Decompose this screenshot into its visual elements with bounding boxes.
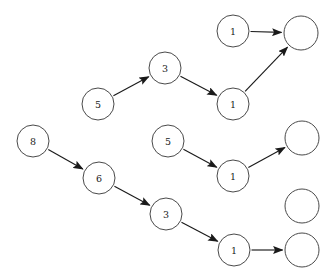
- graph-node[interactable]: 1: [217, 15, 249, 47]
- edge-arrow: [183, 149, 216, 167]
- node-label: 5: [165, 136, 171, 147]
- graph-node[interactable]: 1: [218, 234, 250, 266]
- graph-node-empty[interactable]: [285, 121, 319, 155]
- node-circle[interactable]: [284, 16, 318, 50]
- node-label: 6: [96, 173, 102, 184]
- graph-node[interactable]: 3: [149, 52, 181, 84]
- node-circle[interactable]: [285, 121, 319, 155]
- node-label: 1: [230, 99, 236, 110]
- edge-arrow: [181, 222, 217, 241]
- node-label: 1: [230, 26, 236, 37]
- graph-node-empty[interactable]: [285, 233, 319, 267]
- edge-arrow: [245, 47, 287, 91]
- node-label: 3: [162, 63, 168, 74]
- node-label: 8: [30, 136, 36, 147]
- graph-node[interactable]: 1: [217, 88, 249, 120]
- edge-arrow: [180, 76, 216, 95]
- graph-node-empty[interactable]: [285, 189, 319, 223]
- node-circle[interactable]: [285, 189, 319, 223]
- node-graph: 1351856131: [0, 0, 334, 279]
- graph-node[interactable]: 5: [82, 88, 114, 120]
- diagram-canvas: 1351856131: [0, 0, 334, 279]
- node-label: 3: [163, 209, 169, 220]
- node-label: 1: [230, 171, 236, 182]
- graph-node[interactable]: 5: [152, 125, 184, 157]
- edge-arrow: [48, 150, 83, 169]
- node-circle[interactable]: [285, 233, 319, 267]
- edge-arrow: [113, 77, 148, 96]
- graph-node[interactable]: 8: [17, 125, 49, 157]
- graph-node[interactable]: 3: [150, 198, 182, 230]
- graph-node-empty[interactable]: [284, 16, 318, 50]
- node-label: 5: [95, 99, 101, 110]
- node-layer: 1351856131: [17, 15, 319, 267]
- graph-node[interactable]: 6: [83, 162, 115, 194]
- edge-arrow: [250, 32, 281, 33]
- edge-arrow: [114, 186, 149, 205]
- node-label: 1: [231, 245, 237, 256]
- graph-node[interactable]: 1: [217, 160, 249, 192]
- edge-arrow: [248, 147, 285, 167]
